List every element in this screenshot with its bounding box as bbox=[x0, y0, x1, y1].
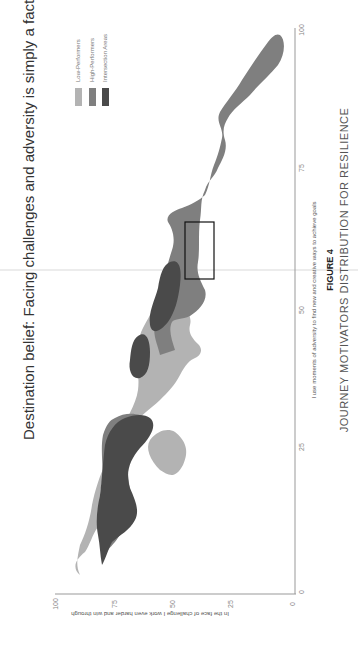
y-axis-label: In the face of challenge I work even har… bbox=[71, 611, 229, 617]
y-tick-100: 100 bbox=[52, 598, 59, 610]
legend-swatch-low-performers bbox=[75, 88, 82, 106]
x-tick-75: 75 bbox=[298, 164, 305, 172]
legend-label-high-performers: High-Performers bbox=[89, 38, 95, 82]
y-tick-25: 25 bbox=[227, 600, 234, 608]
legend-label-low-performers: Low-Performers bbox=[75, 39, 81, 82]
legend: Low-Performers High-Performers Intersect… bbox=[75, 34, 109, 106]
low-performers-tail bbox=[148, 430, 186, 475]
legend-swatch-high-performers bbox=[89, 88, 96, 106]
chart-title: Destination belief: Facing challenges an… bbox=[20, 0, 37, 440]
x-axis-ticks: 0 25 50 75 100 bbox=[298, 24, 305, 594]
chart-figure: 0 25 50 75 100 0 25 50 75 100 In the fac… bbox=[0, 0, 358, 650]
figure-caption: JOURNEY MOTIVATORS DISTRIBUTION FOR RESI… bbox=[338, 108, 350, 433]
x-tick-25: 25 bbox=[298, 443, 305, 451]
y-tick-75: 75 bbox=[111, 600, 118, 608]
y-axis-ticks: 0 25 50 75 100 bbox=[52, 598, 296, 610]
figure-number: FIGURE 4 bbox=[325, 249, 335, 291]
x-tick-100: 100 bbox=[298, 24, 305, 36]
x-axis-label: I use moments of adversity to find new a… bbox=[311, 201, 317, 398]
y-tick-0: 0 bbox=[289, 602, 296, 606]
legend-swatch-intersection-areas bbox=[102, 88, 109, 106]
x-tick-0: 0 bbox=[298, 590, 305, 594]
legend-label-intersection-areas: Intersection Areas bbox=[102, 34, 108, 82]
x-tick-50: 50 bbox=[298, 306, 305, 314]
y-tick-50: 50 bbox=[169, 600, 176, 608]
